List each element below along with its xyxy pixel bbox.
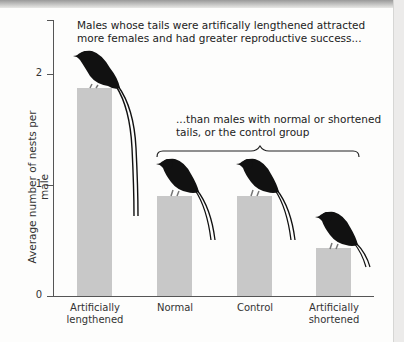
annotation-line: tails, or the control group	[176, 126, 381, 139]
annotation-middle: ...than males with normal or shortened t…	[176, 113, 381, 139]
page-top-shadow	[0, 0, 403, 8]
annotation-line: more females and had greater reproductiv…	[77, 32, 365, 45]
category-label-line: shortened	[294, 314, 374, 326]
y-tick-0	[47, 296, 53, 297]
page-edge	[393, 0, 404, 342]
category-label-artificially-shortened: Artificially shortened	[294, 302, 374, 326]
bird-control-tail-icon	[235, 156, 305, 246]
annotation-top: Males whose tails were artifically lengt…	[77, 19, 365, 45]
bird-long-tail-icon	[72, 48, 152, 218]
annotation-line: ...than males with normal or shortened	[176, 113, 381, 126]
x-axis	[53, 296, 374, 297]
y-tick-label-0: 0	[28, 289, 42, 300]
y-axis-label: Average number of nests per male	[26, 97, 50, 277]
category-label-control: Control	[215, 302, 295, 314]
category-label-line: Artificially	[294, 302, 374, 314]
y-axis-cap	[47, 20, 53, 21]
y-tick-2	[47, 74, 53, 75]
annotation-line: Males whose tails were artifically lengt…	[77, 19, 365, 32]
category-label-line: Artificially	[55, 302, 135, 314]
category-label-artificially-lengthened: Artificially lengthened	[55, 302, 135, 326]
category-label-normal: Normal	[135, 302, 215, 314]
y-axis	[53, 20, 54, 297]
bird-normal-tail-icon	[155, 156, 225, 246]
category-label-line: lengthened	[55, 314, 135, 326]
bird-short-tail-icon	[314, 209, 379, 274]
y-tick-label-2: 2	[28, 67, 42, 78]
